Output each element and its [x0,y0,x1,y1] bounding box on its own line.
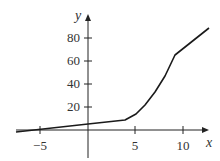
x-tick-label: −5 [33,138,47,153]
y-axis-arrow-icon [85,14,91,21]
x-tick-label: 10 [177,138,190,153]
y-tick-label: 20 [67,99,80,114]
y-tick-label: 60 [67,53,80,68]
x-axis-arrow-icon [202,127,209,133]
x-tick-label: 5 [132,138,139,153]
chart-canvas: −5 5 10 80 60 40 20 x y [0,0,220,161]
y-tick-label: 40 [67,76,80,91]
y-tick-label: 80 [67,30,80,45]
x-axis-label: x [205,135,213,150]
y-axis-label: y [73,8,82,23]
data-curve [16,28,209,132]
